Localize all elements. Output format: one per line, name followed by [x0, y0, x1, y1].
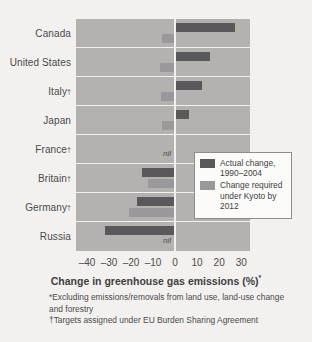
legend-item-kyoto-requirement: Change required under Kyoto by 2012	[200, 180, 287, 211]
x-axis-tick-labels: –40–30–20–100102030	[76, 257, 250, 271]
x-axis-tick-label: –10	[145, 257, 162, 268]
footnote-dagger-marker: †	[67, 88, 71, 95]
chart-row	[76, 77, 250, 106]
legend-label-kyoto-line3: 2012	[220, 201, 239, 211]
x-axis-title: Change in greenhouse gas emissions (%)*	[0, 274, 312, 287]
bar-actual-change-russia	[105, 226, 175, 235]
x-axis-tick	[152, 251, 153, 256]
bar-kyoto-target-united-states	[160, 63, 175, 72]
legend-swatch-actual-change	[200, 159, 215, 168]
bar-actual-change-canada	[175, 23, 234, 32]
category-label-text: France	[35, 144, 67, 155]
chart-row	[76, 19, 250, 48]
bar-actual-change-united-states	[175, 52, 210, 61]
x-axis-title-text: Change in greenhouse gas emissions (%)	[51, 275, 259, 287]
chart-figure: CanadaUnited StatesItaly†JapanFrance†Bri…	[0, 0, 312, 342]
category-label-text: Canada	[35, 28, 71, 39]
legend-label-kyoto-line2: under Kyoto by	[220, 191, 276, 201]
chart-row: nil	[76, 222, 250, 251]
bar-actual-change-britain	[142, 168, 175, 177]
x-axis-tick	[130, 251, 131, 256]
bar-actual-change-japan	[175, 110, 189, 119]
chart-row	[76, 106, 250, 135]
legend-label-kyoto-line1: Change required	[220, 180, 282, 190]
legend-item-actual-change: Actual change, 1990–2004	[200, 158, 287, 178]
x-axis-tick	[241, 251, 242, 256]
bar-kyoto-target-germany	[129, 208, 175, 217]
footnote-dagger-marker: †	[67, 175, 71, 182]
category-label-france: France†	[0, 135, 71, 164]
footnote-2: †Targets assigned under EU Burden Sharin…	[49, 315, 289, 327]
bar-kyoto-target-japan	[162, 121, 175, 130]
category-label-japan: Japan	[0, 106, 71, 135]
category-label-britain: Britain†	[0, 164, 71, 193]
bar-kyoto-target-italy	[161, 92, 175, 101]
category-label-text: Britain	[38, 173, 67, 184]
x-axis-tick	[86, 251, 87, 256]
category-label-germany: Germany†	[0, 193, 71, 222]
legend-label-actual-change: Actual change, 1990–2004	[220, 158, 275, 178]
x-axis-tick-label: –20	[123, 257, 140, 268]
x-axis-title-footnote-marker: *	[258, 274, 261, 281]
category-axis-labels: CanadaUnited StatesItaly†JapanFrance†Bri…	[0, 19, 71, 251]
footnotes: *Excluding emissions/removals from land …	[49, 292, 289, 327]
x-axis-tick-label: –30	[101, 257, 118, 268]
x-axis-tick	[219, 251, 220, 256]
x-axis-tick-label: 30	[236, 257, 247, 268]
legend-label-kyoto-requirement: Change required under Kyoto by 2012	[220, 180, 282, 211]
x-axis-tick-label: 20	[214, 257, 225, 268]
nil-label: nil	[163, 236, 171, 245]
category-label-united-states: United States	[0, 48, 71, 77]
category-label-text: Germany	[25, 202, 67, 213]
bar-actual-change-italy	[175, 81, 202, 90]
nil-label: nil	[163, 149, 171, 158]
x-axis-tick-label: 10	[192, 257, 203, 268]
legend-swatch-kyoto-requirement	[200, 181, 215, 190]
x-axis-tick-label: –40	[79, 257, 96, 268]
category-label-text: Italy	[48, 86, 67, 97]
legend: Actual change, 1990–2004 Change required…	[194, 152, 292, 219]
footnote-dagger-marker: †	[67, 146, 71, 153]
bar-kyoto-target-britain	[148, 179, 176, 188]
category-label-text: United States	[10, 57, 71, 68]
chart-row	[76, 48, 250, 77]
legend-label-actual-change-line1: Actual change,	[220, 158, 275, 168]
footnote-1: *Excluding emissions/removals from land …	[49, 292, 289, 315]
x-axis-tick	[197, 251, 198, 256]
x-axis-tick	[175, 251, 176, 256]
zero-line	[174, 19, 176, 251]
legend-label-actual-change-line2: 1990–2004	[220, 168, 262, 178]
x-axis-tick-label: 0	[172, 257, 178, 268]
category-label-russia: Russia	[0, 222, 71, 251]
bar-kyoto-target-canada	[162, 34, 175, 43]
bar-actual-change-germany	[137, 197, 175, 206]
category-label-text: Japan	[43, 115, 71, 126]
x-axis-tick	[108, 251, 109, 256]
footnote-dagger-marker: †	[67, 204, 71, 211]
category-label-canada: Canada	[0, 19, 71, 48]
category-label-text: Russia	[40, 231, 71, 242]
category-label-italy: Italy†	[0, 77, 71, 106]
